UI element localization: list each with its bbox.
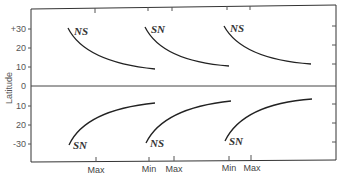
y-ticks-right xyxy=(332,26,336,142)
x-tick-label: Max xyxy=(87,165,105,175)
southern-curves xyxy=(69,99,312,145)
x-tick-label: Max xyxy=(243,163,261,173)
northern-curves xyxy=(68,26,311,69)
x-tick-label: Max xyxy=(165,164,183,174)
y-tick-label: -30 xyxy=(13,139,26,149)
y-tick-label: 10 xyxy=(16,62,26,72)
curve-label-ns: NS xyxy=(73,25,88,37)
curve-label-ns: NS xyxy=(149,137,164,149)
curve-label-ns: NS xyxy=(229,22,244,34)
curve-label-sn: SN xyxy=(151,23,166,35)
butterfly-chart: +30 20 10 0 10 20 -30 Latitude Max Min M… xyxy=(0,0,345,177)
curve-label-sn: SN xyxy=(229,135,244,147)
y-tick-label: 20 xyxy=(16,120,26,130)
x-tick-label: Min xyxy=(222,163,237,173)
y-tick-label: +30 xyxy=(11,24,26,34)
x-tick-label: Min xyxy=(142,164,157,174)
y-tick-label: 20 xyxy=(16,43,26,53)
y-tick-label: 0 xyxy=(21,81,26,91)
x-ticks-top xyxy=(95,6,250,13)
x-tick-labels: Max Min Max Min Max xyxy=(87,163,261,175)
y-axis-label: Latitude xyxy=(4,72,14,104)
y-tick-label: 10 xyxy=(16,101,26,111)
curve-label-sn: SN xyxy=(73,139,88,151)
